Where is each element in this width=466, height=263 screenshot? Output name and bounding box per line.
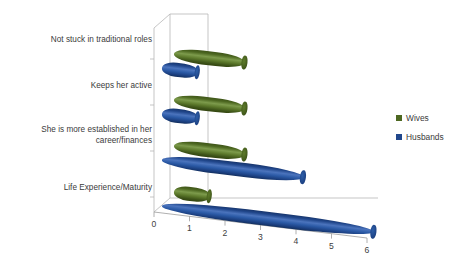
value-tick-label: 2: [223, 228, 228, 238]
chart-container: Not stuck in traditional rolesKeeps her …: [0, 0, 466, 263]
category-label-line: Life Experience/Maturity: [4, 183, 152, 194]
bars-layer: [152, 10, 384, 235]
bar-end-cap: [194, 65, 201, 79]
legend-label-wives: Wives: [406, 113, 429, 123]
category-label-line: Not stuck in traditional roles: [4, 35, 152, 46]
category-label-line: She is more established in her: [4, 125, 152, 136]
category-axis-labels: Not stuck in traditional rolesKeeps her …: [0, 0, 152, 225]
bar-husbands: [161, 61, 198, 79]
value-tick-label: 5: [329, 241, 334, 251]
bar-husbands: [161, 107, 198, 125]
value-tick-label: 0: [152, 219, 157, 229]
category-label-line: Keeps her active: [4, 81, 152, 92]
bar-end-cap: [241, 148, 248, 162]
value-tick-label: 1: [187, 223, 192, 233]
category-label: Not stuck in traditional roles: [4, 35, 152, 46]
bar-end-cap: [241, 102, 248, 116]
category-label-line: career/finances: [4, 136, 152, 147]
value-tick-label: 6: [365, 245, 370, 255]
legend-swatch-wives: [396, 115, 402, 121]
category-label: Keeps her active: [4, 81, 152, 92]
bar-end-cap: [370, 224, 377, 238]
value-tick-label: 4: [294, 236, 299, 246]
legend-label-husbands: Husbands: [406, 132, 444, 142]
bar-husbands: [161, 199, 374, 238]
legend-item-husbands[interactable]: Husbands: [396, 132, 466, 142]
legend-item-wives[interactable]: Wives: [396, 113, 466, 123]
bar-end-cap: [206, 189, 213, 203]
bar-wives: [173, 185, 210, 203]
bar-end-cap: [241, 56, 248, 70]
category-label: Life Experience/Maturity: [4, 183, 152, 194]
bar-end-cap: [194, 111, 201, 125]
value-tick-label: 3: [258, 232, 263, 242]
bar-end-cap: [300, 170, 307, 184]
chart-legend: Wives Husbands: [396, 113, 466, 151]
legend-swatch-husbands: [396, 134, 402, 140]
plot-area: [152, 10, 384, 235]
category-label: She is more established in hercareer/fin…: [4, 125, 152, 147]
